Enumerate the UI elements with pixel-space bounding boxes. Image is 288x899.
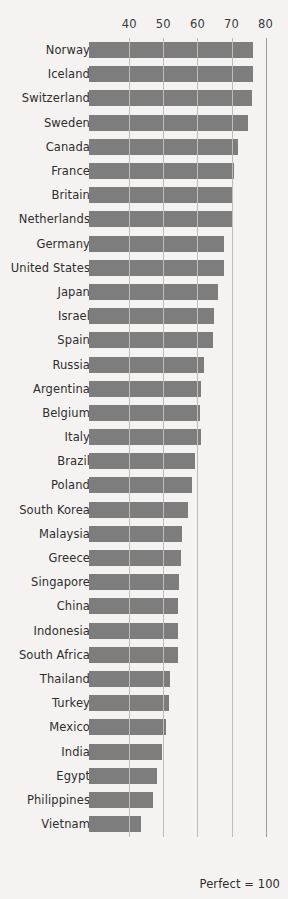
bar xyxy=(89,42,253,58)
bar xyxy=(89,115,248,131)
category-label: India xyxy=(61,745,90,759)
bar-chart: 4050607080 NorwayIcelandSwitzerlandSwede… xyxy=(0,0,288,899)
chart-row: Malaysia xyxy=(0,522,288,546)
chart-row: Germany xyxy=(0,232,288,256)
category-label: Greece xyxy=(48,551,90,565)
bar xyxy=(89,284,218,300)
chart-row: France xyxy=(0,159,288,183)
chart-row: South Korea xyxy=(0,498,288,522)
category-label: Sweden xyxy=(44,116,90,130)
chart-row: Spain xyxy=(0,328,288,352)
category-label: Belgium xyxy=(42,406,90,420)
chart-row: Greece xyxy=(0,546,288,570)
chart-row: Italy xyxy=(0,425,288,449)
chart-footnote: Perfect = 100 xyxy=(200,877,280,891)
bar xyxy=(89,308,214,324)
bar xyxy=(89,550,181,566)
chart-row: Argentina xyxy=(0,377,288,401)
chart-row: India xyxy=(0,739,288,763)
category-label: Spain xyxy=(57,333,90,347)
category-label: Turkey xyxy=(52,696,90,710)
bar xyxy=(89,163,234,179)
bar xyxy=(89,357,204,373)
category-label: Mexico xyxy=(49,720,90,734)
bar xyxy=(89,66,253,82)
category-label: Egypt xyxy=(56,769,90,783)
bar xyxy=(89,768,157,784)
category-label: Netherlands xyxy=(19,212,90,226)
category-label: Norway xyxy=(46,43,90,57)
chart-row: Singapore xyxy=(0,570,288,594)
x-tick-label-60: 60 xyxy=(190,17,205,31)
bar xyxy=(89,260,224,276)
bar xyxy=(89,598,178,614)
category-label: Indonesia xyxy=(33,624,90,638)
bar xyxy=(89,332,213,348)
gridline-60 xyxy=(197,38,198,837)
bar xyxy=(89,574,179,590)
gridline-80 xyxy=(266,38,267,837)
category-label: Thailand xyxy=(40,672,90,686)
bar xyxy=(89,477,192,493)
chart-row: Netherlands xyxy=(0,207,288,231)
category-label: Canada xyxy=(46,140,90,154)
category-label: Russia xyxy=(52,358,90,372)
category-label: United States xyxy=(11,261,90,275)
category-label: Switzerland xyxy=(22,91,90,105)
bar xyxy=(89,792,153,808)
x-tick-label-70: 70 xyxy=(224,17,239,31)
category-label: Poland xyxy=(51,478,90,492)
bar xyxy=(89,236,224,252)
chart-row: Japan xyxy=(0,280,288,304)
bar xyxy=(89,453,195,469)
plot-area: NorwayIcelandSwitzerlandSwedenCanadaFran… xyxy=(0,38,288,836)
bar xyxy=(89,816,141,832)
bar xyxy=(89,647,178,663)
chart-row: Norway xyxy=(0,38,288,62)
category-label: South Korea xyxy=(19,503,90,517)
bar xyxy=(89,187,232,203)
bar xyxy=(89,381,201,397)
chart-row: Indonesia xyxy=(0,619,288,643)
chart-row: Israel xyxy=(0,304,288,328)
bar xyxy=(89,429,201,445)
category-label: Argentina xyxy=(33,382,90,396)
x-axis: 4050607080 xyxy=(0,0,288,40)
chart-row: Iceland xyxy=(0,62,288,86)
category-label: Vietnam xyxy=(41,817,90,831)
chart-row: Canada xyxy=(0,135,288,159)
chart-row: Russia xyxy=(0,352,288,376)
chart-row: Turkey xyxy=(0,691,288,715)
chart-row: China xyxy=(0,594,288,618)
category-label: China xyxy=(57,599,90,613)
bar xyxy=(89,90,252,106)
chart-row: Britain xyxy=(0,183,288,207)
chart-row: Belgium xyxy=(0,401,288,425)
chart-row: Brazil xyxy=(0,449,288,473)
x-tick-label-50: 50 xyxy=(156,17,171,31)
chart-row: Mexico xyxy=(0,715,288,739)
bar xyxy=(89,405,200,421)
chart-row: Thailand xyxy=(0,667,288,691)
category-label: Malaysia xyxy=(39,527,90,541)
category-label: Philippines xyxy=(27,793,90,807)
bar xyxy=(89,744,162,760)
category-label: Singapore xyxy=(31,575,90,589)
category-label: Italy xyxy=(65,430,90,444)
category-label: France xyxy=(51,164,90,178)
bar xyxy=(89,502,188,518)
chart-row: United States xyxy=(0,256,288,280)
category-label: Iceland xyxy=(48,67,90,81)
category-label: South Africa xyxy=(19,648,90,662)
category-label: Israel xyxy=(58,309,90,323)
category-label: Germany xyxy=(36,237,90,251)
category-label: Japan xyxy=(57,285,90,299)
chart-row: Philippines xyxy=(0,788,288,812)
category-label: Brazil xyxy=(57,454,90,468)
chart-row: Egypt xyxy=(0,764,288,788)
bar xyxy=(89,623,178,639)
bar xyxy=(89,719,166,735)
gridline-70 xyxy=(232,38,233,837)
chart-row: South Africa xyxy=(0,643,288,667)
category-label: Britain xyxy=(51,188,90,202)
